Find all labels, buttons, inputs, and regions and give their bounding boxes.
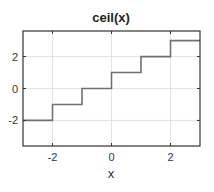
- y-tick-label: 0: [12, 83, 18, 95]
- y-tick-label: -2: [8, 114, 18, 126]
- x-tick-label: 2: [167, 151, 173, 163]
- chart: ceil(x) -202 -202 x: [0, 0, 214, 192]
- x-tick-label: -2: [48, 151, 58, 163]
- y-tick-label: 2: [12, 51, 18, 63]
- x-tick-label: 0: [108, 151, 114, 163]
- x-axis-label: x: [108, 166, 115, 181]
- chart-title: ceil(x): [92, 10, 130, 25]
- x-axis-ticks: -202: [48, 31, 174, 163]
